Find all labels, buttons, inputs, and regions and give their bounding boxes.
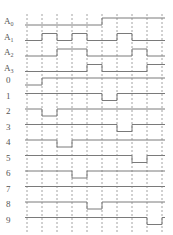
output-label: 4 (6, 137, 11, 147)
output-label: 1 (6, 91, 11, 101)
input-waveform-A0 (25, 18, 165, 25)
grid-lines (27, 14, 162, 232)
timing-diagram: A0A1A2A30123456789 (0, 0, 173, 235)
output-label: 8 (6, 199, 11, 209)
output-waveform-4 (25, 140, 165, 147)
output-waveform-3 (25, 125, 165, 132)
input-label: A2 (4, 47, 14, 58)
input-label: A3 (4, 63, 14, 74)
output-waveform-2 (25, 109, 165, 116)
output-label: 3 (6, 122, 11, 132)
signal-labels: A0A1A2A30123456789 (4, 16, 14, 225)
output-label: 5 (6, 153, 11, 163)
output-waveform-1 (25, 94, 165, 101)
input-waveform-A3 (25, 65, 165, 72)
output-waveform-0 (25, 78, 165, 85)
output-label: 0 (6, 75, 11, 85)
input-label: A0 (4, 16, 14, 27)
input-waveform-A2 (25, 49, 165, 56)
output-label: 6 (6, 168, 11, 178)
output-label: 9 (6, 215, 11, 225)
output-label: 2 (6, 106, 11, 116)
input-label: A1 (4, 32, 14, 43)
input-waveform-A1 (25, 34, 165, 41)
output-waveform-9 (25, 218, 165, 225)
waveforms (25, 18, 165, 225)
output-label: 7 (6, 184, 11, 194)
output-waveform-8 (25, 202, 165, 209)
output-waveform-5 (25, 156, 165, 163)
output-waveform-6 (25, 171, 165, 178)
